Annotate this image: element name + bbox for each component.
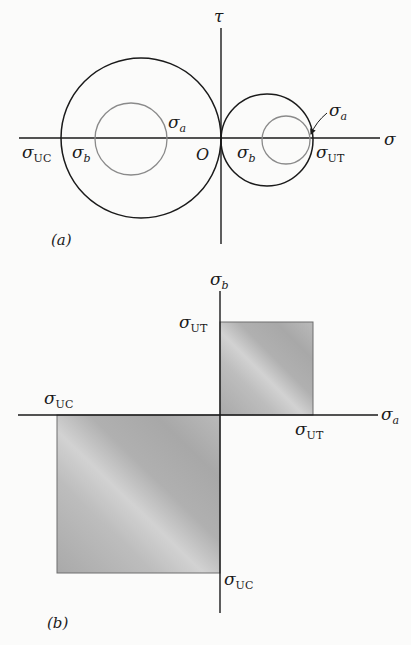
- sigma-a-label-right: σa: [329, 100, 347, 123]
- sigma-a-leader-arrow: [311, 113, 327, 134]
- compressive-safe-region: [57, 415, 220, 573]
- sigma-a-label-left: σa: [168, 112, 186, 135]
- failure-criterion-diagram: τ σ O σUC σb σa σb σa σUT (a) σb: [0, 0, 411, 645]
- mohr-circle-plot: τ σ O σUC σb σa σb σa σUT (a): [19, 6, 396, 249]
- sigma-a-axis-label: σa: [381, 404, 399, 427]
- sigma-ut-label-vertical: σUT: [179, 312, 208, 335]
- caption-a: (a): [51, 231, 72, 249]
- sigma-uc-label-horizontal: σUC: [44, 388, 73, 411]
- sigma-uc-label-vertical: σUC: [224, 569, 253, 592]
- tensile-limit-circle: [221, 94, 313, 186]
- sigma-b-label-right: σb: [237, 142, 256, 165]
- origin-label: O: [196, 145, 209, 164]
- sigma-ut-label-a: σUT: [316, 142, 345, 165]
- tau-axis-label: τ: [214, 6, 224, 26]
- tensile-stress-circle: [262, 116, 310, 164]
- tensile-safe-region: [220, 322, 313, 415]
- sigma-b-axis-label: σb: [210, 269, 229, 292]
- caption-b: (b): [47, 614, 68, 632]
- sigma-axis-label: σ: [384, 129, 396, 149]
- sigma-uc-label-a: σUC: [22, 142, 51, 165]
- sigma-ut-label-horizontal: σUT: [295, 419, 324, 442]
- failure-envelope-plot: σb σa σUT σUT σUC σUC (b): [18, 269, 399, 632]
- compressive-stress-circle: [95, 103, 167, 175]
- sigma-b-label-left: σb: [72, 142, 91, 165]
